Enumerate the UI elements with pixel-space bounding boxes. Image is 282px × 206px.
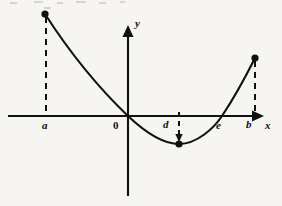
tick-label-a: a (42, 120, 48, 131)
point-d-minimum (175, 140, 182, 147)
y-axis-arrowhead (123, 25, 134, 37)
figure-canvas: y x 0 a d e b (0, 0, 282, 206)
tick-label-d: d (163, 119, 169, 130)
x-axis-label: x (265, 120, 271, 131)
x-axis-arrowhead (252, 111, 264, 122)
point-a-endpoint (41, 10, 48, 17)
graph-svg (0, 0, 282, 206)
point-b-endpoint (251, 54, 258, 61)
scan-artifact-band (10, 1, 125, 9)
tick-label-e: e (216, 120, 221, 131)
y-axis (123, 25, 134, 196)
origin-label: 0 (113, 120, 119, 131)
tick-label-b: b (246, 119, 252, 130)
y-axis-label: y (135, 18, 140, 29)
parabola-curve (45, 14, 255, 144)
